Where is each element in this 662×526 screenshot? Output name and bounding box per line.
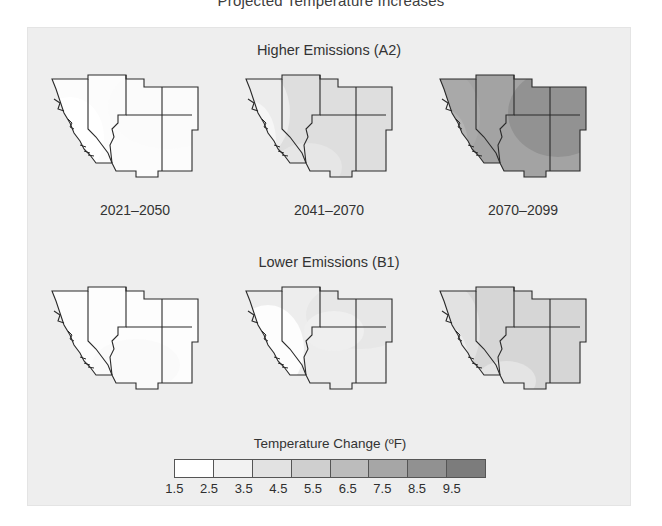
period-label-2041-2070: 2041–2070 [234,202,424,218]
colorbar-tick-6.5: 6.5 [330,481,365,496]
map-lower-emissions-2021-2050 [40,279,230,411]
projected-temperature-figure: Projected Temperature Increases Higher E… [0,0,662,526]
colorbar-tick-7.5: 7.5 [365,481,400,496]
colorbar-tick-8.5: 8.5 [400,481,435,496]
colorbar-swatch-5.5-6.5 [331,460,370,477]
colorbar-tick-5.5: 5.5 [296,481,331,496]
colorbar-tick-4.5: 4.5 [261,481,296,496]
colorbar-swatch-3.5-4.5 [253,460,292,477]
figure-panel: Higher Emissions (A2) [27,27,631,506]
colorbar-tick-2.5: 2.5 [192,481,227,496]
row-title-lower-emissions: Lower Emissions (B1) [28,254,630,270]
colorbar-wrapper: 1.52.53.54.55.56.57.58.59.5 [174,459,486,496]
map-lower-emissions-2041-2070 [234,279,424,411]
map-higher-emissions-2070-2099 [428,67,618,199]
colorbar-tick-1.5: 1.5 [157,481,192,496]
colorbar-swatch-6.5-7.5 [369,460,408,477]
colorbar-swatch-4.5-5.5 [292,460,331,477]
legend: Temperature Change (ºF) 1.52.53.54.55.56… [28,436,632,496]
period-label-2021-2050: 2021–2050 [40,202,230,218]
colorbar-swatch-1.5-2.5 [175,460,214,477]
map-higher-emissions-2021-2050 [40,67,230,199]
map-lower-emissions-2070-2099 [428,279,618,411]
page-title: Projected Temperature Increases [0,0,662,9]
period-label-2070-2099: 2070–2099 [428,202,618,218]
row-title-higher-emissions: Higher Emissions (A2) [28,42,630,58]
colorbar-tick-3.5: 3.5 [226,481,261,496]
colorbar-swatch-8.5-9.5 [447,460,485,477]
colorbar-tick-9.5: 9.5 [434,481,469,496]
colorbar-tick-labels: 1.52.53.54.55.56.57.58.59.5 [157,481,469,496]
legend-title: Temperature Change (ºF) [28,436,632,451]
colorbar-swatch-2.5-3.5 [214,460,253,477]
map-higher-emissions-2041-2070 [234,67,424,199]
colorbar [174,459,486,478]
colorbar-swatch-7.5-8.5 [408,460,447,477]
